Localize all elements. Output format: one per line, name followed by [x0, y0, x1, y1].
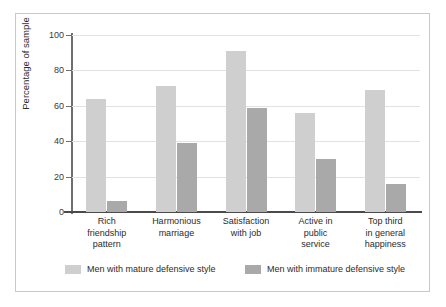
- y-tick-label: 80: [36, 66, 64, 75]
- x-axis-category-labels: RichfriendshippatternHarmoniousmarriageS…: [72, 216, 420, 260]
- legend-label: Men with immature defensive style: [267, 264, 405, 274]
- chart-legend: Men with mature defensive styleMen with …: [40, 262, 420, 276]
- bar-immature-4: [386, 184, 406, 212]
- category-label-line: Rich: [72, 216, 142, 228]
- category-label-line: pattern: [72, 239, 142, 251]
- category-label-line: marriage: [142, 228, 212, 240]
- y-tick-label: 40: [36, 137, 64, 146]
- bar-mature-0: [86, 99, 106, 212]
- bar-chart-figure: Percentage of sample 020406080100 Richfr…: [0, 0, 446, 307]
- legend-item-mature[interactable]: Men with mature defensive style: [65, 262, 216, 276]
- y-tick-label: 60: [36, 102, 64, 111]
- bar-immature-2: [247, 108, 267, 212]
- y-tick-label: 20: [36, 173, 64, 182]
- bar-immature-1: [177, 143, 197, 212]
- category-label-line: friendship: [72, 228, 142, 240]
- bar-mature-1: [156, 86, 176, 212]
- x-axis-category-label: Satisfactionwith job: [211, 216, 281, 239]
- legend-label: Men with mature defensive style: [87, 264, 216, 274]
- category-label-line: Top third: [350, 216, 420, 228]
- legend-swatch-icon: [245, 265, 261, 274]
- legend-item-immature[interactable]: Men with immature defensive style: [245, 262, 405, 276]
- category-label-line: happiness: [350, 239, 420, 251]
- x-axis-category-label: Top thirdin generalhappiness: [350, 216, 420, 251]
- bar-immature-0: [107, 201, 127, 212]
- gridline: [72, 35, 420, 36]
- x-axis-category-label: Active inpublicservice: [281, 216, 351, 251]
- gridline: [72, 70, 420, 71]
- bar-immature-3: [316, 159, 336, 212]
- category-label-line: service: [281, 239, 351, 251]
- category-label-line: Active in: [281, 216, 351, 228]
- bar-mature-4: [365, 90, 385, 212]
- y-tick-label: 0: [36, 208, 64, 217]
- y-axis-title: Percentage of sample: [20, 0, 31, 134]
- bar-mature-2: [226, 51, 246, 212]
- category-label-line: Harmonious: [142, 216, 212, 228]
- category-label-line: public: [281, 228, 351, 240]
- bar-mature-3: [295, 113, 315, 212]
- y-axis-tick-labels: 020406080100: [32, 0, 64, 307]
- category-label-line: with job: [211, 228, 281, 240]
- category-label-line: Satisfaction: [211, 216, 281, 228]
- category-label-line: in general: [350, 228, 420, 240]
- y-tick-label: 100: [36, 31, 64, 40]
- x-axis-category-label: Richfriendshippattern: [72, 216, 142, 251]
- x-axis-category-label: Harmoniousmarriage: [142, 216, 212, 239]
- legend-swatch-icon: [65, 265, 81, 274]
- plot-area: [72, 35, 420, 212]
